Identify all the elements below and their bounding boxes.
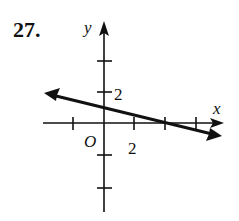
x-axis <box>43 117 224 130</box>
origin-label: O <box>84 132 96 151</box>
x-axis-label: x <box>212 99 221 118</box>
x-tick-label: 2 <box>128 139 137 158</box>
y-tick-label: 2 <box>114 85 123 104</box>
y-axis <box>97 21 112 212</box>
y-axis-label: y <box>82 18 92 37</box>
coordinate-graph: y x O 2 2 <box>0 0 239 221</box>
plotted-line <box>44 88 222 141</box>
line-arrow-left-icon <box>44 88 60 101</box>
